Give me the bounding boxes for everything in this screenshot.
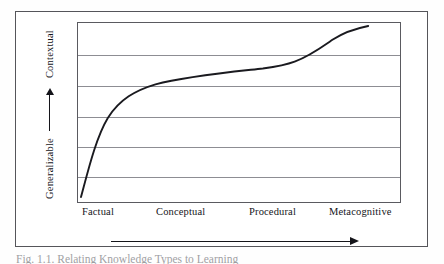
x-axis-label-metacognitive: Metacognitive	[329, 206, 392, 217]
y-axis-high-label: Contextual	[44, 30, 55, 78]
x-axis-label-procedural: Procedural	[249, 206, 296, 217]
up-arrow-icon	[45, 85, 54, 131]
y-axis-label: Generalizable Contextual	[38, 23, 60, 205]
y-axis-label-text: Generalizable Contextual	[44, 30, 55, 199]
x-axis-label-conceptual: Conceptual	[156, 206, 205, 217]
arrow-head	[350, 237, 359, 245]
curve-path	[81, 26, 368, 197]
arrow-shaft	[111, 241, 351, 242]
figure-caption: Fig. 1.1. Relating Knowledge Types to Le…	[16, 253, 416, 264]
figure-frame: Generalizable Contextual Factual Concept…	[15, 11, 428, 247]
arrow-head	[45, 88, 53, 95]
x-axis-label-factual: Factual	[82, 206, 114, 217]
right-arrow-icon	[111, 236, 359, 247]
arrow-shaft	[49, 91, 50, 131]
plot-area	[77, 22, 401, 203]
knowledge-progression-curve	[78, 23, 400, 202]
x-axis-labels: Factual Conceptual Procedural Metacognit…	[77, 206, 417, 222]
y-axis-low-label: Generalizable	[44, 138, 55, 199]
